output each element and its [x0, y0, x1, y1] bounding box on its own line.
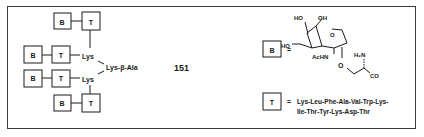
b-label-4: B — [59, 100, 64, 107]
t-label-4: T — [89, 100, 94, 107]
ho-top-left: HO — [294, 15, 303, 21]
amino-group: H₂N — [354, 52, 365, 58]
carbonyl-group: CO — [370, 73, 379, 79]
ho-left: HO — [281, 43, 290, 49]
t-sequence-line-2: Ile-Thr-Tyr-Lys-Asp-Thr — [297, 108, 370, 116]
t-label-3: T — [59, 75, 64, 82]
glycosidic-oxygen: O — [338, 62, 344, 69]
t-label-2: T — [59, 52, 64, 59]
compound-number: 151 — [174, 63, 189, 73]
oh-top-right: OH — [318, 15, 327, 21]
b-label-2: B — [30, 52, 35, 59]
legend-t-equals: = — [287, 98, 291, 105]
legend-t-box-label: T — [270, 99, 275, 106]
lys-upper: Lys — [82, 53, 94, 61]
legend-b-box-label: B — [269, 47, 274, 54]
t-sequence-line-1: Lys-Leu-Phe-Ala-Val-Trp-Lys- — [297, 98, 388, 106]
diagram-canvas: B T B T B T B T Lys Lys Lys-β-Ala 151 B … — [0, 0, 424, 137]
b-label-1: B — [59, 19, 64, 26]
t-label-1: T — [89, 19, 94, 26]
achn-group: AcHN — [312, 54, 328, 60]
lys-beta-ala-core: Lys-β-Ala — [106, 64, 138, 72]
ring-oxygen: O — [330, 32, 335, 38]
b-label-3: B — [30, 75, 35, 82]
lys-lower: Lys — [82, 76, 94, 84]
